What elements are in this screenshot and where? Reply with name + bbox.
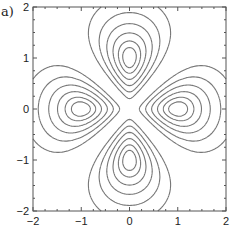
contour-level [58,33,202,185]
y-tick-label: −2 [16,205,29,217]
x-tick-label: 0 [126,215,132,227]
y-tick-label: 1 [23,52,29,64]
x-tick-label: 2 [223,215,229,227]
y-tick-labels: −2−1012 [16,1,29,217]
contour-plot: −2−1012 −2−1012 [0,0,233,231]
contour-level [33,7,226,211]
axis-ticks [33,7,226,211]
y-tick-label: −1 [16,154,29,166]
y-tick-label: 2 [23,1,29,13]
contour-level [71,48,187,171]
contour-level [65,41,194,177]
x-tick-label: 1 [175,215,181,227]
contour-level [49,24,211,195]
y-tick-label: 0 [23,103,29,115]
x-tick-labels: −2−1012 [27,215,229,227]
x-tick-label: −1 [75,215,88,227]
plot-frame [33,7,226,211]
contour-lines [33,7,226,211]
